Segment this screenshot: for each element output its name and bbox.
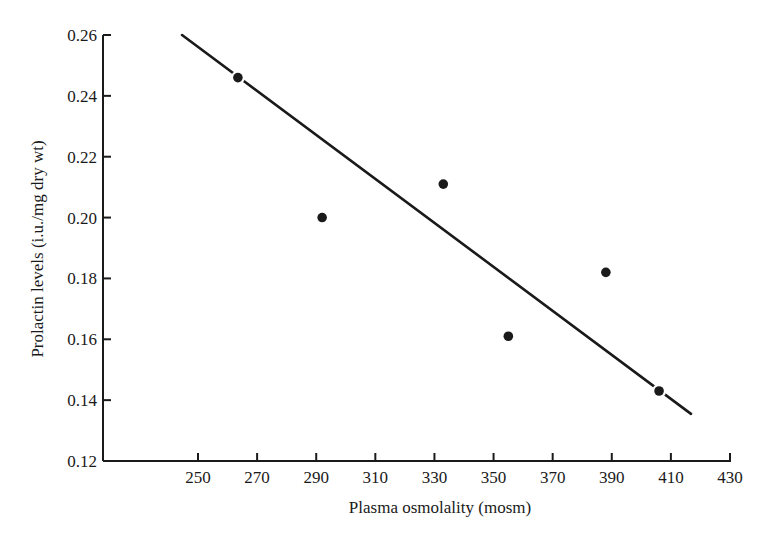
regression-line: [182, 35, 691, 414]
y-tick-label: 0.26: [67, 26, 97, 45]
y-tick-label: 0.20: [67, 209, 97, 228]
scatter-chart: 0.120.140.160.180.200.220.240.26 2502702…: [0, 0, 762, 542]
data-point: [601, 268, 611, 278]
y-tick-label: 0.22: [67, 148, 97, 167]
x-tick-label: 290: [303, 468, 329, 487]
x-tick-label: 370: [540, 468, 566, 487]
x-axis-ticks: 250270290310330350370390410430: [185, 453, 743, 487]
axes: [103, 35, 731, 461]
x-axis-title: Plasma osmolality (mosm): [349, 498, 531, 517]
x-tick-label: 430: [717, 468, 743, 487]
data-point: [654, 386, 664, 396]
x-tick-label: 330: [422, 468, 448, 487]
y-axis-title: Prolactin levels (i.u./mg dry wt): [28, 140, 47, 357]
y-tick-label: 0.14: [67, 391, 97, 410]
data-point: [504, 331, 514, 341]
y-tick-label: 0.12: [67, 452, 97, 471]
x-tick-label: 410: [658, 468, 684, 487]
x-tick-label: 390: [599, 468, 625, 487]
regression-line-path: [182, 35, 691, 414]
y-tick-label: 0.24: [67, 87, 97, 106]
x-tick-label: 270: [244, 468, 270, 487]
y-tick-label: 0.18: [67, 269, 97, 288]
data-point: [317, 213, 327, 223]
y-axis-ticks: 0.120.140.160.180.200.220.240.26: [67, 26, 111, 471]
x-tick-label: 310: [363, 468, 389, 487]
x-tick-label: 250: [185, 468, 211, 487]
data-point: [439, 179, 449, 189]
y-tick-label: 0.16: [67, 330, 97, 349]
data-point: [233, 73, 243, 83]
x-tick-label: 350: [481, 468, 507, 487]
